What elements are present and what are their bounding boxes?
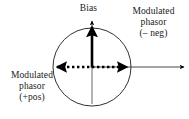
modulated-phasor-neg-label: Modulated phasor (– neg) — [118, 6, 189, 39]
modulated-phasor-neg-line3: (– neg) — [118, 28, 189, 39]
modulated-phasor-neg-line1: Modulated — [118, 6, 189, 17]
modulated-phasor-pos-line1: Modulated — [0, 70, 64, 81]
modulated-phasor-neg-line2: phasor — [118, 17, 189, 28]
phasor-diagram: Bias Modulated phasor (– neg) Modulated … — [0, 0, 189, 119]
modulated-phasor-pos-line3: (+pos) — [0, 92, 64, 103]
modulated-phasor-pos-label: Modulated phasor (+pos) — [0, 70, 64, 103]
modulated-phasor-pos-line2: phasor — [0, 81, 64, 92]
